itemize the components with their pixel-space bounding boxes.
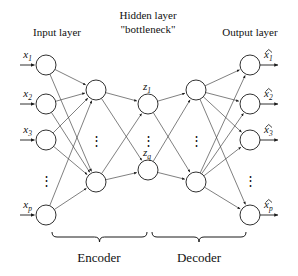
edge-decoder-hidden-1-to-output-0 — [200, 75, 245, 172]
label-bottleneck-1: zq — [142, 146, 151, 161]
edge-encoder-hidden-1-to-bottleneck-1 — [106, 173, 137, 180]
edge-input-3-to-encoder-hidden-0 — [50, 101, 92, 206]
ellipsis-decoder-hidden: ⋮ — [190, 133, 203, 148]
label-input-0: x1 — [22, 48, 32, 63]
node-input-0 — [36, 55, 56, 75]
edge-input-1-to-encoder-hidden-1 — [51, 112, 89, 172]
label-bottleneck-0: z1 — [142, 80, 151, 95]
edge-bottleneck-1-to-decoder-hidden-0 — [153, 100, 190, 162]
hidden-layer-title-line1: Hidden layer — [119, 9, 176, 21]
node-encoder-hidden-0 — [86, 80, 106, 100]
edge-encoder-hidden-0-to-bottleneck-0 — [106, 93, 137, 101]
brace-decoder — [152, 232, 246, 242]
node-input-3 — [36, 205, 56, 225]
decoder-section-label: Decoder — [177, 250, 222, 265]
node-labels-group: x1x2x3xpz1zqx1x2x3xp — [22, 48, 273, 213]
hidden-layer-title-line2: "bottleneck" — [121, 23, 176, 35]
label-input-2: x3 — [22, 123, 32, 138]
edge-bottleneck-1-to-decoder-hidden-1 — [158, 172, 185, 179]
node-output-0 — [240, 55, 260, 75]
node-input-1 — [36, 94, 56, 114]
node-output-2 — [240, 130, 260, 150]
autoencoder-diagram: ⋮⋮⋮⋮⋮ x1x2x3xpz1zqx1x2x3xp Input layer H… — [0, 0, 298, 276]
edge-decoder-hidden-0-to-output-2 — [203, 97, 241, 132]
edge-encoder-hidden-0-to-bottleneck-1 — [101, 98, 141, 160]
node-bottleneck-1 — [138, 160, 158, 180]
label-input-3: xp — [22, 198, 32, 213]
node-output-1 — [240, 94, 260, 114]
encoder-section-label: Encoder — [77, 250, 121, 265]
node-output-3 — [240, 205, 260, 225]
edge-decoder-hidden-0-to-output-0 — [205, 70, 239, 86]
node-input-2 — [36, 130, 56, 150]
node-decoder-hidden-1 — [186, 172, 206, 192]
ellipsis-input: ⋮ — [40, 173, 53, 188]
edge-input-0-to-encoder-hidden-1 — [50, 74, 92, 171]
edge-input-0-to-encoder-hidden-0 — [55, 69, 86, 84]
edge-bottleneck-0-to-decoder-hidden-0 — [158, 93, 185, 101]
brace-encoder — [52, 232, 147, 242]
ellipsis-encoder-hidden: ⋮ — [90, 133, 103, 148]
node-decoder-hidden-0 — [186, 80, 206, 100]
node-bottleneck-0 — [138, 94, 158, 114]
edge-bottleneck-0-to-decoder-hidden-1 — [153, 113, 190, 173]
edge-decoder-hidden-1-to-output-1 — [202, 113, 244, 173]
network-svg: ⋮⋮⋮⋮⋮ x1x2x3xpz1zqx1x2x3xp Input layer H… — [0, 0, 298, 276]
ellipsis-output: ⋮ — [244, 173, 257, 188]
label-input-1: x2 — [22, 87, 32, 102]
braces-group — [52, 232, 246, 242]
output-layer-title: Output layer — [222, 26, 278, 38]
edge-decoder-hidden-1-to-output-3 — [205, 187, 241, 209]
input-layer-title: Input layer — [33, 26, 81, 38]
edge-input-3-to-encoder-hidden-1 — [54, 188, 86, 209]
node-encoder-hidden-1 — [86, 172, 106, 192]
edge-input-2-to-encoder-hidden-0 — [53, 98, 88, 133]
edge-encoder-hidden-1-to-bottleneck-0 — [102, 114, 142, 174]
